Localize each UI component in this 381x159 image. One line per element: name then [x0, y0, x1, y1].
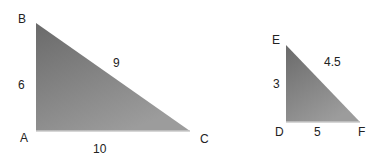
- side-length-bc: 9: [113, 56, 120, 70]
- vertex-label-c: C: [200, 132, 209, 146]
- vertex-label-d: D: [275, 125, 284, 139]
- triangle-def-shape: [286, 45, 360, 122]
- vertex-label-e: E: [272, 33, 280, 47]
- vertex-label-b: B: [18, 12, 26, 26]
- side-length-ac: 10: [93, 142, 107, 156]
- similar-triangles-diagram: B A C 6 9 10 E D F 3 4.5 5: [0, 0, 381, 159]
- side-length-df: 5: [314, 125, 321, 139]
- triangle-def: E D F 3 4.5 5: [272, 33, 365, 139]
- triangle-abc: B A C 6 9 10: [18, 12, 209, 156]
- vertex-label-f: F: [358, 125, 365, 139]
- triangle-abc-shape: [36, 23, 190, 131]
- side-length-de: 3: [273, 77, 280, 91]
- side-length-ef: 4.5: [324, 55, 341, 69]
- vertex-label-a: A: [20, 131, 28, 145]
- side-length-ab: 6: [18, 78, 25, 92]
